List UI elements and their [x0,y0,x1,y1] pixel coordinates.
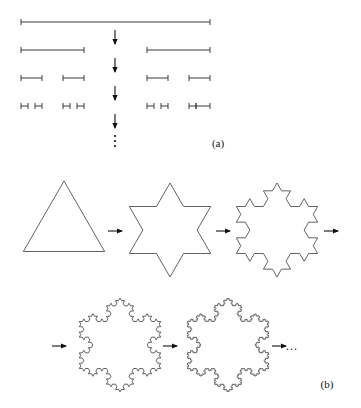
ellipsis-dot [114,145,116,147]
panel-b-label: (b) [321,378,334,391]
fractal-figure: (a) (b) ... [0,0,361,408]
panel-a-label: (a) [212,137,225,150]
ellipsis-dot [114,140,116,142]
trailing-ellipsis: ... [286,339,298,353]
vertical-ellipsis [114,135,116,147]
figure-canvas: (a) (b) ... [0,0,361,408]
ellipsis-dot [114,135,116,137]
